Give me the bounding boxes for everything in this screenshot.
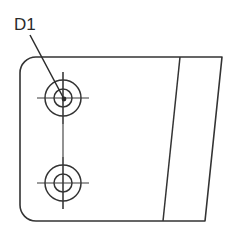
drawing-svg: D1 <box>0 0 235 231</box>
d1-callout-label: D1 <box>14 15 36 34</box>
taper-band-inner-edge <box>163 57 180 221</box>
d1-leader-arrow-dot <box>62 97 67 102</box>
lower-counterbore-hole <box>37 157 89 209</box>
technical-drawing-canvas: D1 <box>0 0 235 231</box>
